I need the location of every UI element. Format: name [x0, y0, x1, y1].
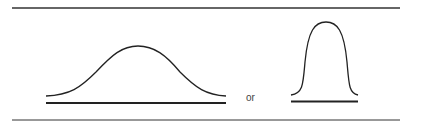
distribution-comparison-diagram [0, 0, 423, 126]
narrow-bell-curve [291, 22, 358, 102]
narrow-curve-path [291, 22, 358, 95]
wide-curve-path [46, 46, 226, 96]
or-connector-label: or [246, 92, 255, 103]
wide-bell-curve [46, 46, 226, 103]
